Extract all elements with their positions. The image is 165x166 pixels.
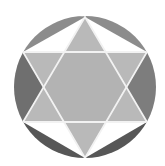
hexagram-figure [0, 0, 165, 166]
hexagram-svg [0, 0, 165, 166]
segment-top-left-b [0, 0, 85, 17]
